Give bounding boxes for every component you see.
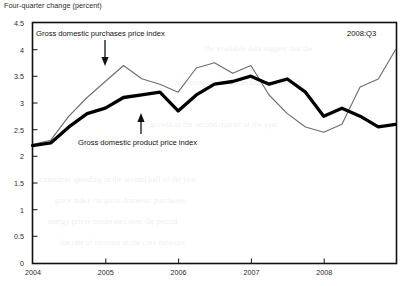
plot-frame	[33, 23, 397, 264]
series-line-gross-domestic-product	[33, 76, 396, 145]
series-line-gross-domestic-purchases	[33, 50, 396, 145]
chart-container: consumer spending in the second half of …	[0, 0, 409, 286]
annotation-arrow-down-icon	[101, 40, 108, 66]
plot-svg	[0, 0, 409, 286]
annotation-arrow-up-icon	[137, 113, 144, 134]
